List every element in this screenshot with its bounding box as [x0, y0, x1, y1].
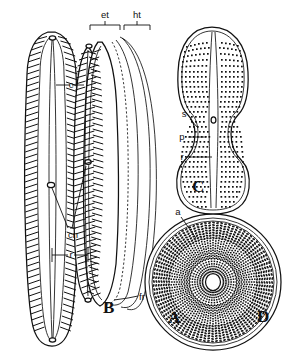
panel-letter-b: B — [103, 298, 114, 317]
label-c: c — [69, 79, 74, 90]
label-s: s — [182, 108, 187, 119]
central-nodule-a — [47, 182, 54, 187]
label-r-c: r — [180, 151, 183, 162]
central-hyaline-area-d — [206, 274, 221, 291]
label-r-a: r — [69, 249, 72, 260]
label-et: et — [101, 9, 109, 20]
polar-nodule-a-bottom — [49, 338, 55, 342]
panel-letter-a: A — [168, 308, 181, 327]
panel-letter-d: D — [257, 307, 269, 326]
label-fr: fr — [139, 291, 145, 302]
label-a: a — [175, 206, 181, 217]
label-ht: ht — [133, 9, 141, 20]
label-p: p — [179, 131, 184, 142]
central-area-c — [211, 117, 216, 123]
diatom-morphology-figure: et ht c cn r fr s p r a A B C D — [0, 0, 282, 358]
label-cn: cn — [68, 229, 78, 240]
polar-nodule-b-bottom — [85, 298, 91, 302]
polar-nodule-b-top — [86, 44, 92, 48]
figure-canvas: et ht c cn r fr s p r a A B C D — [0, 0, 282, 358]
panel-d-drawing — [145, 214, 281, 350]
polar-nodule-a-top — [49, 36, 55, 40]
panel-letter-c: C — [192, 177, 204, 196]
